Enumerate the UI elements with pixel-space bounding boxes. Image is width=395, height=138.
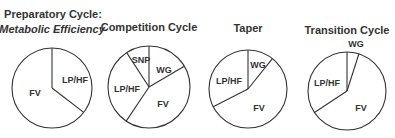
title-taper: Taper [233, 22, 263, 34]
title-transition: Transition Cycle [305, 24, 390, 36]
slice-label-wg: WG [250, 60, 266, 70]
slice-label-lphf: LP/HF [114, 84, 141, 94]
title-competition: Competition Cycle [101, 21, 198, 33]
pie-competition: WG FV LP/HF SNP [108, 46, 190, 128]
slice-label-lphf: LP/HF [216, 76, 243, 86]
slice-label-wg: WG [156, 65, 172, 75]
slice-label-snp: SNP [132, 55, 151, 65]
pie-preparatory: LP/HF FV [12, 48, 92, 128]
slice-label-fv: FV [355, 103, 367, 113]
pie-charts-figure: Preparatory Cycle: Metabolic Efficiency … [0, 0, 395, 138]
title-preparatory: Preparatory Cycle: [4, 8, 102, 20]
slice-label-fv: FV [157, 99, 169, 109]
slice-label-lphf: LP/HF [62, 75, 89, 85]
slice-label-wg: WG [348, 39, 364, 49]
slice-label-lphf: LP/HF [314, 78, 341, 88]
pie-transition: WG FV LP/HF [308, 39, 386, 130]
slice-label-fv: FV [29, 88, 41, 98]
slice-label-fv: FV [253, 103, 265, 113]
subtitle-preparatory: Metabolic Efficiency [0, 23, 106, 35]
pie-taper: WG FV LP/HF [209, 50, 287, 128]
